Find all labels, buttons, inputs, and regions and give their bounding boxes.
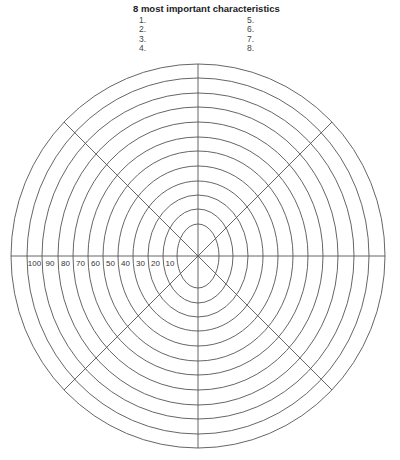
characteristics-wheel: 100908070605040302010 [0,0,400,460]
wheel-spoke [198,122,332,256]
scale-label: 30 [136,259,145,268]
scale-label: 40 [121,259,130,268]
scale-label: 20 [151,259,160,268]
scale-label: 60 [91,259,100,268]
wheel-spoke [198,256,332,390]
scale-label: 90 [46,259,55,268]
scale-labels: 100908070605040302010 [28,259,175,268]
scale-label: 70 [76,259,85,268]
scale-label: 10 [166,259,175,268]
wheel-spoke [64,256,198,390]
scale-label: 50 [106,259,115,268]
wheel-spokes [11,64,385,448]
wheel-spoke [64,122,198,256]
scale-label: 80 [61,259,70,268]
scale-label: 100 [28,259,42,268]
